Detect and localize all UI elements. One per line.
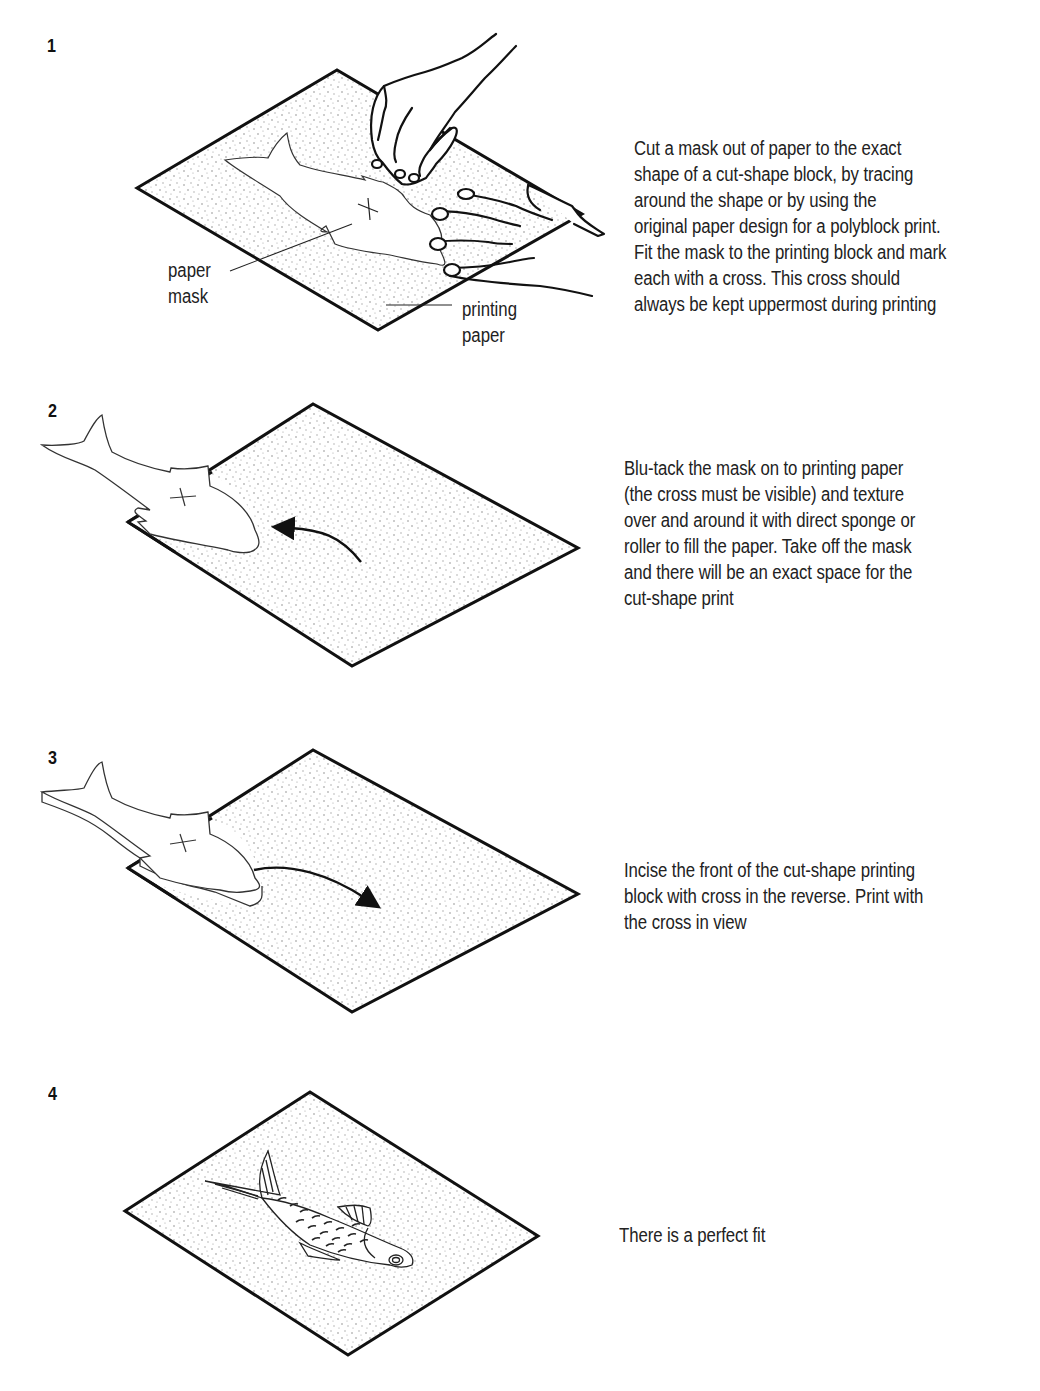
paper-mask-label: paper mask bbox=[168, 257, 211, 309]
step-number: 2 bbox=[48, 400, 57, 422]
step-2-description: Blu-tack the mask on to printing paper (… bbox=[624, 455, 915, 611]
step-4-description: There is a perfect fit bbox=[619, 1222, 765, 1248]
printing-paper-label: printing paper bbox=[462, 296, 517, 348]
step-number: 1 bbox=[47, 35, 56, 57]
step-3-illustration bbox=[42, 750, 578, 1012]
step-number: 4 bbox=[48, 1083, 57, 1105]
step-4-illustration bbox=[125, 1092, 538, 1355]
step-1-description: Cut a mask out of paper to the exact sha… bbox=[634, 135, 946, 317]
step-number: 3 bbox=[48, 747, 57, 769]
step-3-description: Incise the front of the cut-shape printi… bbox=[624, 857, 923, 935]
step-2-illustration bbox=[42, 404, 578, 666]
